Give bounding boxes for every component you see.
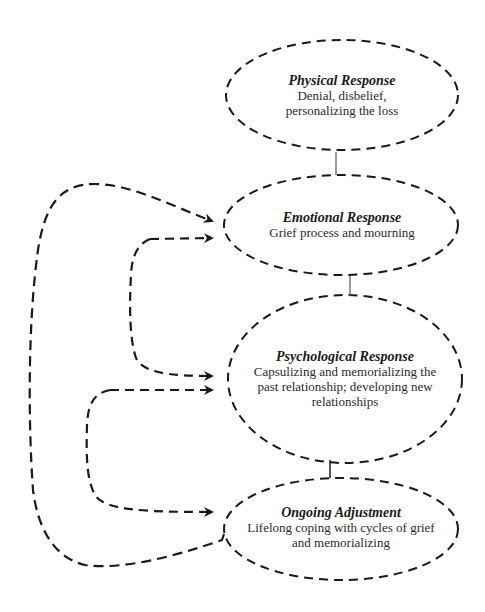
physical-response-line-1: Denial, disbelief,	[232, 88, 452, 103]
physical-response-node: Physical Response Denial, disbelief, per…	[232, 73, 452, 118]
ongoing-adjustment-title: Ongoing Adjustment	[230, 505, 452, 520]
emotional-response-node: Emotional Response Grief process and mou…	[232, 210, 452, 240]
psychological-response-node: Psychological Response Capsulizing and m…	[232, 349, 458, 409]
psychological-response-line-1: Capsulizing and memorializing the	[232, 364, 458, 379]
emotional-response-line-1: Grief process and mourning	[232, 225, 452, 240]
psychological-response-line-2: past relationship; developing new	[232, 379, 458, 394]
emotional-response-title: Emotional Response	[232, 210, 452, 225]
physical-response-line-2: personalizing the loss	[232, 103, 452, 118]
bracket-arrow-emotional-psychological	[130, 239, 212, 376]
bracket-arrow-psychological-ongoing	[87, 390, 212, 512]
psychological-response-line-3: relationships	[232, 394, 458, 409]
ongoing-adjustment-line-2: and memorializing	[230, 535, 452, 550]
bracket-arrow-emotional-top	[150, 238, 212, 239]
ongoing-adjustment-node: Ongoing Adjustment Lifelong coping with …	[230, 505, 452, 550]
ongoing-adjustment-line-1: Lifelong coping with cycles of grief	[230, 520, 452, 535]
psychological-response-title: Psychological Response	[232, 349, 458, 364]
physical-response-title: Physical Response	[232, 73, 452, 88]
